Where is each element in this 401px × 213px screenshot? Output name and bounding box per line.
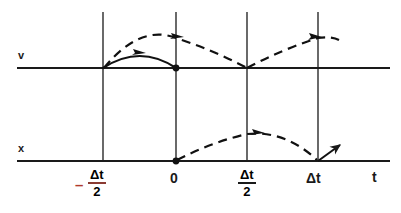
v-axis-label: v (18, 50, 24, 61)
tick-minus-half-dt-denominator: 2 (93, 184, 100, 198)
tick-half-dt: Δt 2 (238, 168, 256, 198)
tick-half-dt-denominator: 2 (243, 184, 250, 198)
straight-exit-arrow (318, 145, 340, 161)
dot-v-axis-origin (173, 65, 180, 72)
tick-half-dt-numerator: Δt (238, 168, 256, 182)
solid-velocity-arc (103, 56, 176, 68)
t-axis-label: t (372, 170, 377, 184)
tick-dt: Δt (306, 171, 321, 185)
x-axis-label: x (18, 143, 24, 154)
dashed-velocity-arc-second (247, 37, 339, 68)
minus-sign: – (75, 176, 83, 193)
gridlines (103, 12, 318, 161)
dashed-velocity-arc-second-arrowhead (308, 33, 322, 40)
tick-minus-half-dt: Δt 2 (88, 168, 106, 198)
tick-minus-half-dt-numerator: Δt (88, 168, 106, 182)
dot-x-axis-origin (173, 158, 180, 165)
physics-diagram (0, 0, 401, 213)
solid-velocity-arc-arrowhead (132, 49, 146, 55)
tick-zero: 0 (170, 171, 178, 185)
